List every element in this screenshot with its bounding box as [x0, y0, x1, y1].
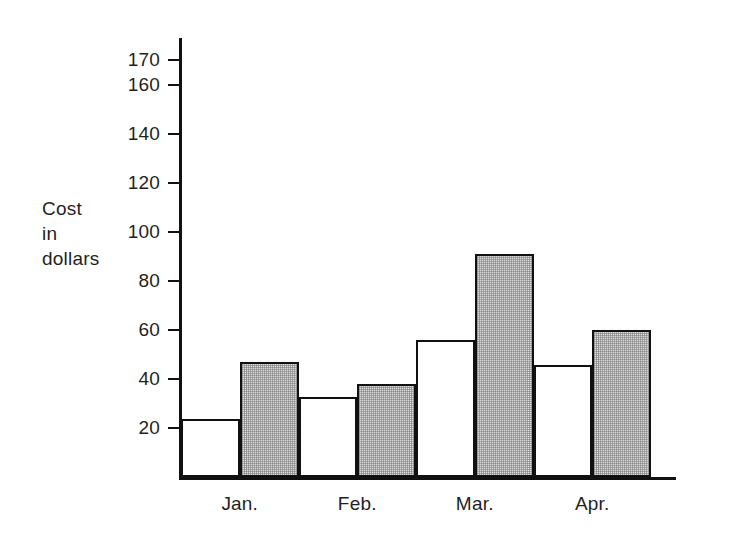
- y-axis-tick-label: 60: [98, 320, 160, 339]
- bar: [299, 397, 358, 478]
- y-axis-tick-label-text: 80: [102, 271, 160, 290]
- bar: [357, 384, 416, 477]
- y-axis-tick-label-text: 170: [102, 50, 160, 69]
- y-axis-tick-mark: [168, 378, 181, 380]
- bar: [475, 254, 534, 477]
- y-axis-tick-mark: [168, 329, 181, 331]
- x-axis-category-label: Jan.: [190, 493, 290, 515]
- y-axis-tick-label: 160: [98, 75, 160, 94]
- plot-area: 20406080100120140160170 Jan.Feb.Mar.Apr.: [0, 0, 751, 545]
- y-axis-tick-label-text: 160: [102, 75, 160, 94]
- y-axis-tick-label-text: 40: [102, 369, 160, 388]
- y-axis-tick-label-text: 140: [102, 124, 160, 143]
- y-axis-tick-mark: [168, 59, 181, 61]
- bar: [534, 365, 593, 478]
- x-axis-category-label: Mar.: [425, 493, 525, 515]
- y-axis-tick-label-text: 60: [102, 320, 160, 339]
- y-axis-tick-mark: [168, 280, 181, 282]
- y-axis-tick-mark: [168, 427, 181, 429]
- bar: [181, 419, 240, 478]
- y-axis-tick-mark: [168, 84, 181, 86]
- y-axis-tick-label: 140: [98, 124, 160, 143]
- y-axis-tick-label: 170: [98, 50, 160, 69]
- x-axis-category-label: Feb.: [307, 493, 407, 515]
- y-axis-tick-label: 40: [98, 369, 160, 388]
- y-axis-tick-label: 80: [98, 271, 160, 290]
- bars-layer: [181, 40, 651, 478]
- y-axis-tick-mark: [168, 182, 181, 184]
- y-axis-tick-mark: [168, 133, 181, 135]
- bar-chart: Costindollars 20406080100120140160170 Ja…: [0, 0, 751, 545]
- y-axis-tick-mark: [168, 231, 181, 233]
- y-axis-tick-label-text: 20: [102, 418, 160, 437]
- y-axis-tick-label: 20: [98, 418, 160, 437]
- y-axis-tick-label-text: 100: [102, 222, 160, 241]
- x-axis-category-label: Apr.: [542, 493, 642, 515]
- y-axis-tick-label: 120: [98, 173, 160, 192]
- bar: [416, 340, 475, 477]
- y-axis-tick-label-text: 120: [102, 173, 160, 192]
- y-axis-tick-label: 100: [98, 222, 160, 241]
- bar: [592, 330, 651, 477]
- bar: [240, 362, 299, 477]
